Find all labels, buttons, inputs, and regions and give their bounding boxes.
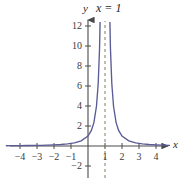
y-tick-label-6: 6 [67, 81, 82, 91]
x-tick-label-minus-2: −2 [45, 152, 63, 162]
asymptote-equation-label: x = 1 [96, 2, 121, 14]
curve-right-branch [107, 0, 169, 145]
x-tick-label-4: 4 [150, 152, 162, 162]
x-tick-label-minus-4: −4 [11, 152, 29, 162]
y-tick-label-10: 10 [67, 41, 82, 51]
y-tick-label-4: 4 [67, 101, 82, 111]
y-tick-label-minus-2: −2 [63, 161, 82, 171]
y-axis-label: y [83, 3, 88, 14]
y-tick-label-2: 2 [67, 121, 82, 131]
x-tick-label-2: 2 [116, 152, 128, 162]
x-tick-label-minus-1: −1 [62, 152, 80, 162]
function-graph-figure: 12 10 8 6 4 2 −2 −4 −3 −2 −1 1 2 3 4 y x… [0, 0, 188, 185]
y-tick-label-8: 8 [67, 61, 82, 71]
x-tick-label-minus-3: −3 [28, 152, 46, 162]
x-tick-label-1: 1 [99, 152, 111, 162]
x-tick-label-3: 3 [133, 152, 145, 162]
y-tick-label-12: 12 [67, 21, 82, 31]
x-axis-label: x [173, 139, 178, 150]
